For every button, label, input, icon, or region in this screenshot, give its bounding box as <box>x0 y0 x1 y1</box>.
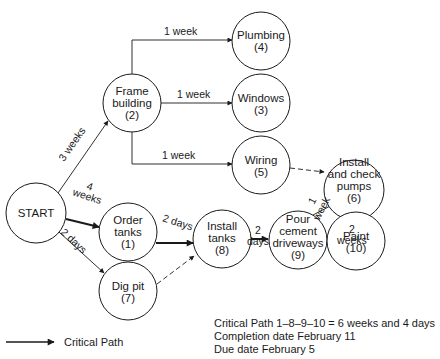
node-wiring-label-2: (5) <box>254 166 268 178</box>
node-order-label-3: (1) <box>121 238 135 250</box>
edge-label-start-dig: 2 days <box>59 226 90 256</box>
node-dig-label-2: (7) <box>121 292 135 304</box>
node-plumbing-label-1: Plumbing <box>237 29 285 41</box>
node-frame-label-2: building <box>112 97 152 109</box>
edge-frame-plumbing <box>132 40 232 74</box>
edge-label-frame-plumbing: 1 week <box>164 25 198 37</box>
note-critical-path: Critical Path 1–8–9–10 = 6 weeks and 4 d… <box>214 317 435 330</box>
node-dig-label-1: Dig pit <box>112 280 145 292</box>
node-frame-label-3: (2) <box>125 109 139 121</box>
node-start-label: START <box>18 207 55 219</box>
node-pour-label-2: cement <box>279 225 318 237</box>
node-pumps-label-1: Install <box>339 156 369 168</box>
node-windows-label-2: (3) <box>254 104 268 116</box>
node-pumps-label-3: pumps <box>337 180 372 192</box>
legend-critical-path-label: Critical Path <box>64 336 123 348</box>
edge-label-order-install: 2 days <box>161 211 194 232</box>
node-pour-label-4: (9) <box>291 249 305 261</box>
node-pumps-label-2: and check <box>328 168 381 180</box>
note-completion-date: Completion date February 11 <box>214 330 356 343</box>
node-order-label-1: Order <box>113 214 143 226</box>
node-install-label-3: (8) <box>215 244 229 256</box>
node-windows-label-1: Windows <box>238 92 285 104</box>
note-due-date: Due date February 5 <box>214 343 315 356</box>
node-wiring-label-1: Wiring <box>245 154 278 166</box>
edge-label-install-pour-2: days <box>247 235 269 247</box>
edge-start-order-critical <box>66 219 99 227</box>
edge-label-frame-wiring: 1 week <box>162 149 196 161</box>
edge-dig-install <box>157 256 194 284</box>
edge-label-start-order-2: weeks <box>70 185 103 206</box>
node-pour-label-3: driveways <box>272 237 323 249</box>
node-pour-label-1: Pour <box>286 213 310 225</box>
node-plumbing-label-2: (4) <box>254 41 268 53</box>
node-install-label-1: Install <box>207 220 237 232</box>
node-install-label-2: tanks <box>208 232 236 244</box>
pert-diagram: START Frame building (2) Plumbing (4) Wi… <box>0 0 440 359</box>
edge-label-frame-windows: 1 week <box>177 88 211 100</box>
node-pumps-label-4: (6) <box>347 192 361 204</box>
node-frame-label-1: Frame <box>115 85 148 97</box>
edge-label-pour-paint-2: weeks <box>336 234 367 246</box>
node-order-label-2: tanks <box>114 226 142 238</box>
edge-wiring-pumps <box>290 168 324 172</box>
